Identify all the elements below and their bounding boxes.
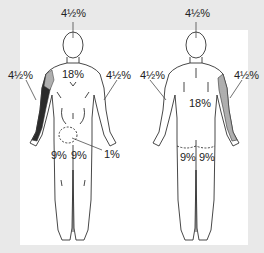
front-right-leg-label: 9% [51, 150, 67, 161]
back-left-arm-label: 4½% [140, 70, 165, 81]
front-right-arm-label: 4½% [8, 70, 33, 81]
body-figures [0, 0, 264, 253]
back-body [153, 32, 239, 240]
back-right-leg-label: 9% [199, 152, 215, 163]
front-left-leg-label: 9% [71, 150, 87, 161]
front-body [30, 32, 116, 240]
back-head-label: 4½% [185, 8, 210, 19]
back-left-leg-label: 9% [180, 152, 196, 163]
front-trunk-label: 18% [62, 69, 84, 80]
front-left-arm-label: 4½% [106, 70, 131, 81]
back-right-arm-label: 4½% [234, 70, 259, 81]
front-head-label: 4½% [61, 8, 86, 19]
front-genitals-label: 1% [104, 149, 120, 160]
back-trunk-label: 18% [189, 98, 211, 109]
